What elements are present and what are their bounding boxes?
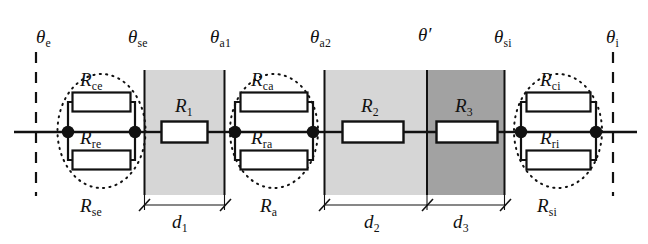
label-r-a: Ra	[260, 196, 277, 215]
node-dot-theta-e	[62, 126, 74, 138]
node-dot-theta-a1	[229, 126, 241, 138]
label-theta-si: θsi	[494, 27, 512, 46]
resistor-box-rci	[527, 93, 591, 112]
label-d-2: d2	[364, 212, 380, 231]
label-theta-e: θe	[36, 27, 51, 46]
resistor-box-rre	[73, 151, 131, 170]
label-r-ce: Rce	[80, 70, 102, 89]
resistor-box-r3	[437, 122, 498, 143]
label-theta-se: θse	[128, 27, 148, 46]
label-r-si: Rsi	[537, 196, 557, 215]
label-theta-prime: θ′	[418, 25, 432, 44]
label-r-1: R1	[175, 96, 193, 115]
group-layer-1	[162, 122, 208, 143]
node-dot-theta-se	[129, 126, 141, 138]
label-r-2: R2	[361, 96, 379, 115]
node-dot-theta-i	[590, 126, 602, 138]
resistor-box-rce	[73, 93, 131, 112]
label-theta-a1: θa1	[210, 27, 231, 46]
thermal-resistance-diagram: θe θse θa1 θa2 θ′ θsi θi Rce Rre R1 Rca …	[0, 0, 648, 244]
label-r-ri: Rri	[540, 128, 559, 147]
label-r-ci: Rci	[540, 70, 561, 89]
label-r-se: Rse	[80, 196, 102, 215]
dimension-lines	[139, 195, 511, 211]
label-r-3: R3	[455, 96, 473, 115]
resistor-box-rca	[241, 93, 308, 112]
group-layer-3	[437, 122, 498, 143]
resistor-box-rri	[527, 151, 591, 170]
node-dot-theta-si	[515, 126, 527, 138]
label-r-ra: Rra	[251, 128, 272, 147]
resistor-box-r2	[343, 122, 404, 143]
label-d-3: d3	[453, 212, 469, 231]
label-r-re: Rre	[80, 128, 101, 147]
group-layer-2	[343, 122, 404, 143]
resistor-box-r1	[162, 122, 208, 143]
resistor-box-rra	[241, 151, 308, 170]
label-theta-a2: θa2	[310, 27, 331, 46]
label-theta-i: θi	[606, 27, 619, 46]
label-r-ca: Rca	[251, 70, 273, 89]
node-dot-theta-a2	[307, 126, 319, 138]
label-d-1: d1	[172, 212, 188, 231]
